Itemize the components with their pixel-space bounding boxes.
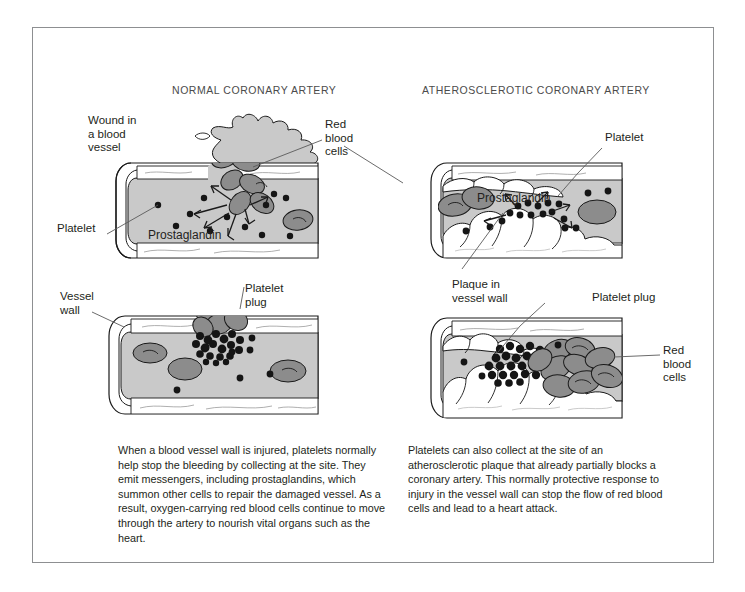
diagram-blocked-artery	[431, 303, 660, 418]
label-plaque: Plaque in vessel wall	[452, 278, 508, 305]
caption-normal-artery: When a blood vessel wall is injured, pla…	[118, 443, 386, 545]
label-red-blood-cells-right: Red blood cells	[663, 344, 691, 385]
diagram-platelet-plug-normal	[92, 287, 318, 414]
label-red-blood-cells-left: Red blood cells	[325, 118, 353, 159]
diagram-atherosclerotic-artery	[431, 148, 622, 269]
label-platelet-plug-left: Platelet plug	[245, 282, 283, 309]
label-prostaglandin-right: Prostaglandin	[477, 192, 550, 206]
blood-droplet	[195, 133, 210, 139]
label-vessel-wall: Vessel wall	[60, 290, 94, 317]
caption-atherosclerotic-artery: Platelets can also collect at the site o…	[408, 443, 676, 516]
leader-platelet-plug-left	[240, 287, 244, 309]
label-platelet-plug-right: Platelet plug	[592, 291, 655, 305]
blood-splash	[211, 114, 318, 167]
label-wound: Wound in a blood vessel	[88, 114, 136, 155]
label-platelet-right: Platelet	[605, 131, 643, 145]
figure-root: How the body’s natural wound healing can…	[0, 0, 745, 592]
label-prostaglandin-left: Prostaglandin	[148, 229, 221, 243]
label-platelet-left: Platelet	[57, 222, 95, 236]
